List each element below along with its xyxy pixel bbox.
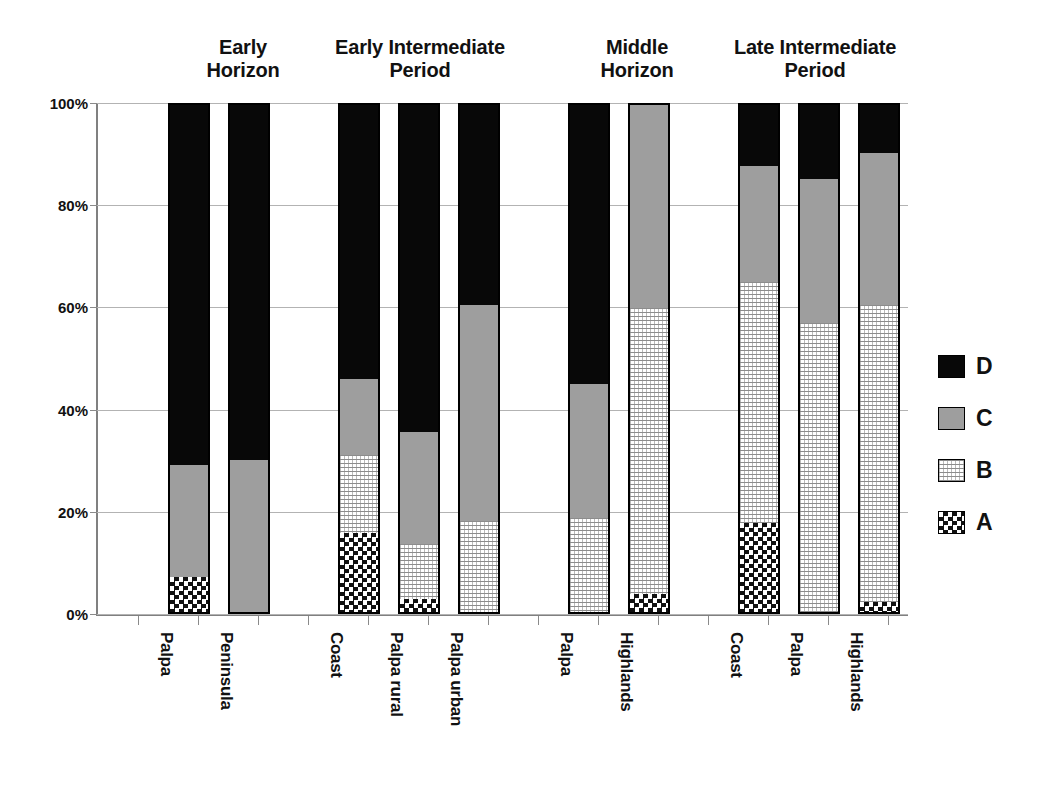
bar-segment-c bbox=[340, 379, 378, 455]
y-axis-tick-mark bbox=[90, 512, 97, 513]
x-axis-tick-mark bbox=[138, 616, 139, 625]
legend-item-c[interactable]: C bbox=[938, 392, 1048, 444]
bar-segment-c bbox=[630, 105, 668, 308]
bar-3[interactable] bbox=[398, 103, 440, 614]
legend-label: C bbox=[976, 405, 993, 432]
legend-item-d[interactable]: D bbox=[938, 340, 1048, 392]
y-axis-tick-label: 80% bbox=[28, 197, 88, 214]
bar-segment-b bbox=[570, 518, 608, 612]
bar-segment-d bbox=[230, 105, 268, 460]
category-label-8: Palpa bbox=[786, 632, 806, 676]
x-axis-tick-mark bbox=[198, 616, 199, 625]
x-axis-tick-mark bbox=[888, 616, 889, 625]
category-label-2: Coast bbox=[326, 632, 346, 678]
bar-segment-d bbox=[860, 105, 898, 153]
bar-segment-d bbox=[460, 105, 498, 305]
bar-segment-d bbox=[740, 105, 778, 166]
gridline bbox=[96, 205, 908, 206]
category-label-4: Palpa urban bbox=[446, 632, 466, 726]
bar-segment-a bbox=[860, 602, 898, 612]
x-axis-tick-mark bbox=[538, 616, 539, 625]
legend: DCBA bbox=[938, 340, 1048, 548]
gridline bbox=[96, 512, 908, 513]
bar-0[interactable] bbox=[168, 103, 210, 614]
legend-swatch-b bbox=[938, 459, 965, 482]
category-label-1: Peninsula bbox=[216, 632, 236, 710]
y-axis-tick-mark bbox=[90, 410, 97, 411]
bar-9[interactable] bbox=[858, 103, 900, 614]
bar-segment-b bbox=[460, 521, 498, 612]
y-axis-tick-label: 40% bbox=[28, 401, 88, 418]
x-axis-tick-mark bbox=[768, 616, 769, 625]
bar-segment-c bbox=[800, 179, 838, 323]
bar-segment-a bbox=[740, 523, 778, 612]
x-axis-tick-mark bbox=[658, 616, 659, 625]
y-axis-tick-label: 20% bbox=[28, 503, 88, 520]
bar-segment-d bbox=[340, 105, 378, 379]
bar-segment-c bbox=[230, 460, 268, 612]
x-axis-tick-mark bbox=[428, 616, 429, 625]
y-axis-tick-mark bbox=[90, 307, 97, 308]
bar-segment-d bbox=[170, 105, 208, 465]
bar-segment-a bbox=[340, 533, 378, 612]
y-axis-tick-label: 60% bbox=[28, 299, 88, 316]
x-axis-tick-mark bbox=[708, 616, 709, 625]
x-axis-tick-mark bbox=[488, 616, 489, 625]
category-label-9: Highlands bbox=[846, 632, 866, 711]
legend-label: B bbox=[976, 457, 993, 484]
bar-segment-b bbox=[860, 305, 898, 602]
bar-2[interactable] bbox=[338, 103, 380, 614]
y-axis-tick-mark bbox=[90, 614, 97, 615]
group-title-late-intermediate-period: Late Intermediate Period bbox=[690, 36, 940, 82]
bar-segment-c bbox=[460, 305, 498, 520]
x-axis-tick-mark bbox=[308, 616, 309, 625]
plot-area bbox=[96, 103, 908, 614]
legend-label: D bbox=[976, 353, 993, 380]
bar-segment-c bbox=[860, 153, 898, 305]
bar-6[interactable] bbox=[628, 103, 670, 614]
stacked-bar-chart: Early Horizon Early Intermediate Period … bbox=[0, 0, 1053, 787]
legend-label: A bbox=[976, 509, 993, 536]
bar-segment-b bbox=[340, 455, 378, 534]
category-label-3: Palpa rural bbox=[386, 632, 406, 717]
bar-segment-c bbox=[740, 166, 778, 283]
bar-8[interactable] bbox=[798, 103, 840, 614]
bar-segment-a bbox=[400, 599, 438, 612]
bar-segment-c bbox=[170, 465, 208, 577]
category-label-6: Highlands bbox=[616, 632, 636, 711]
bar-segment-a bbox=[630, 594, 668, 612]
x-axis-tick-mark bbox=[258, 616, 259, 625]
bar-segment-b bbox=[740, 282, 778, 523]
x-axis-tick-mark bbox=[828, 616, 829, 625]
bar-segment-a bbox=[170, 577, 208, 612]
bar-1[interactable] bbox=[228, 103, 270, 614]
y-axis-tick-label: 100% bbox=[28, 95, 88, 112]
bar-segment-d bbox=[570, 105, 608, 384]
x-axis-tick-mark bbox=[368, 616, 369, 625]
legend-item-a[interactable]: A bbox=[938, 496, 1048, 548]
legend-swatch-d bbox=[938, 355, 965, 378]
bar-5[interactable] bbox=[568, 103, 610, 614]
y-axis-labels: 0%20%40%60%80%100% bbox=[24, 103, 88, 614]
bar-segment-b bbox=[800, 323, 838, 612]
bar-segment-b bbox=[400, 544, 438, 600]
bar-segment-d bbox=[800, 105, 838, 179]
legend-item-b[interactable]: B bbox=[938, 444, 1048, 496]
gridline bbox=[96, 103, 908, 104]
category-label-5: Palpa bbox=[556, 632, 576, 676]
bar-segment-c bbox=[400, 432, 438, 544]
bar-7[interactable] bbox=[738, 103, 780, 614]
y-axis-tick-mark bbox=[90, 205, 97, 206]
gridline bbox=[96, 307, 908, 308]
x-axis-tick-mark bbox=[598, 616, 599, 625]
y-axis-tick-mark bbox=[90, 103, 97, 104]
bar-segment-d bbox=[400, 105, 438, 432]
category-label-7: Coast bbox=[726, 632, 746, 678]
legend-swatch-c bbox=[938, 407, 965, 430]
bar-4[interactable] bbox=[458, 103, 500, 614]
y-axis-tick-label: 0% bbox=[28, 606, 88, 623]
legend-swatch-a bbox=[938, 511, 965, 534]
category-label-0: Palpa bbox=[156, 632, 176, 676]
gridline bbox=[96, 614, 908, 615]
bar-segment-c bbox=[570, 384, 608, 518]
